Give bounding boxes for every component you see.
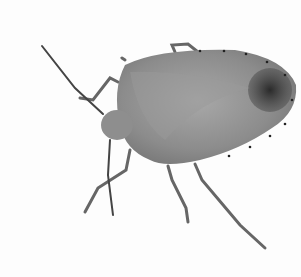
photo: Grayscale photograph of a shield-shaped … [0,0,301,277]
stink-bug-illustration [0,0,301,277]
bug-head [101,110,133,140]
